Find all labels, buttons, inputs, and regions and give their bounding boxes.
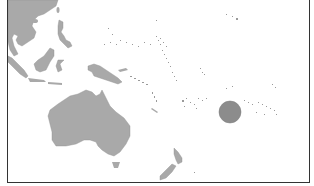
locator-map bbox=[0, 0, 314, 186]
landmass-taiwan bbox=[57, 7, 60, 13]
landmass-hainan bbox=[32, 19, 38, 23]
highlight-marker bbox=[219, 101, 241, 123]
map-background bbox=[0, 0, 314, 186]
